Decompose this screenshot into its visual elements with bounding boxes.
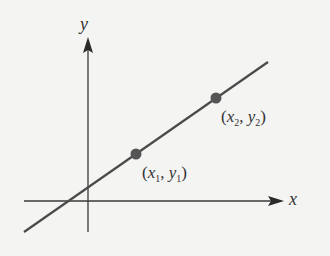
point-2-marker — [211, 93, 222, 104]
y-axis-label: y — [78, 14, 88, 34]
line-through-two-points-diagram: x y (x1, y1) (x2, y2) — [0, 0, 330, 256]
straight-line — [24, 62, 268, 232]
y-axis — [83, 37, 93, 232]
point-1-marker — [131, 149, 142, 160]
point-2-label: (x2, y2) — [221, 107, 266, 128]
point-1-label: (x1, y1) — [142, 163, 187, 184]
x-axis-label: x — [288, 189, 297, 209]
